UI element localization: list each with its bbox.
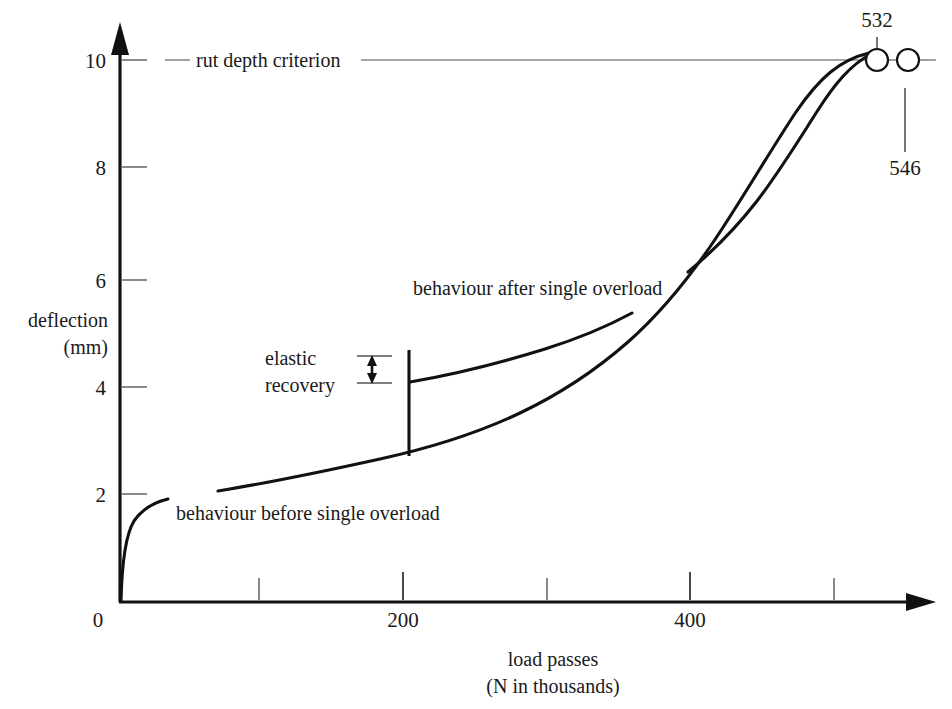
endpoint-marker-546 [897, 49, 919, 71]
behaviour-before-single-overload-label: behaviour before single overload [176, 502, 440, 525]
x-axis [119, 593, 936, 611]
y-tick-label-10: 10 [85, 49, 106, 73]
y-axis-title: deflection [28, 309, 108, 331]
y-tick-label-4: 4 [96, 376, 107, 400]
x-axis-title-unit: (N in thousands) [486, 675, 619, 698]
x-axis-title: load passes [508, 648, 599, 671]
rut-depth-chart: rut depth criterion 10 8 6 4 2 [0, 0, 952, 709]
x-axis-arrowhead [906, 593, 936, 611]
elastic-recovery-label-line1: elastic [265, 347, 316, 369]
x-tick-label-200: 200 [387, 608, 419, 632]
behaviour-after-single-overload-label: behaviour after single overload [413, 277, 662, 300]
y-tick-label-6: 6 [96, 269, 107, 293]
x-tick-label-400: 400 [674, 608, 706, 632]
y-tick-label-8: 8 [96, 156, 107, 180]
endpoint-label-546: 546 [889, 156, 921, 180]
x-tick-label-0: 0 [93, 608, 104, 632]
y-axis-ticks [121, 60, 147, 494]
endpoint-label-532: 532 [861, 8, 893, 32]
elastic-recovery-label-line2: recovery [265, 374, 335, 397]
x-axis-ticks [259, 572, 834, 600]
curve-before-overload-main [218, 53, 869, 491]
y-axis [111, 22, 129, 602]
y-tick-label-2: 2 [96, 483, 107, 507]
curve-before-overload-initial [121, 499, 168, 601]
curve-after-overload-left [410, 313, 632, 382]
rut-depth-criterion-label: rut depth criterion [196, 49, 340, 72]
endpoint-marker-532 [866, 49, 888, 71]
chart-canvas: rut depth criterion 10 8 6 4 2 [0, 0, 952, 709]
elastic-recovery-arrow [357, 355, 392, 384]
y-axis-arrowhead [111, 22, 129, 55]
y-axis-title-unit: (mm) [64, 336, 108, 359]
